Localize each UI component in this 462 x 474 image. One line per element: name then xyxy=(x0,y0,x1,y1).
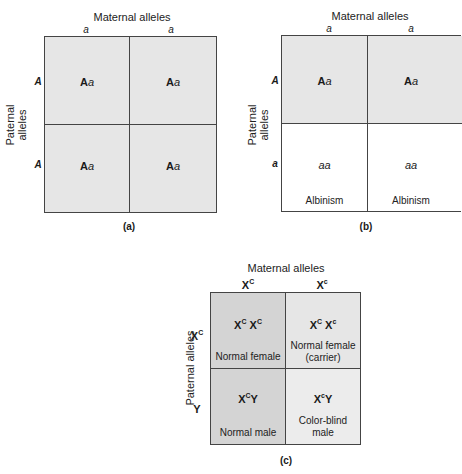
cell-c-1-2: XC Xc Normal female (carrier) xyxy=(286,293,360,369)
panel-c-row-allele-1: XC xyxy=(184,330,210,342)
panel-a-paternal-label: Paternal alleles xyxy=(4,95,28,155)
panel-b-paternal-label: Paternal alleles xyxy=(246,95,270,155)
phenotype: Albinism xyxy=(282,195,367,207)
genotype: Aa xyxy=(130,76,216,88)
panel-b-col-allele-1: a xyxy=(309,23,349,34)
cell-a-1-1: Aa xyxy=(45,37,130,125)
panel-a-paternal-line2: alleles xyxy=(16,95,28,155)
panel-a-row-allele-1: A xyxy=(31,76,45,87)
punnett-grid-c: XC XC Normal female XC Xc Normal female … xyxy=(210,292,361,445)
panel-b-paternal-line2: alleles xyxy=(258,95,270,155)
punnett-grid-b: Aa Aa aa Albinism aa Albinism xyxy=(281,35,461,212)
phenotype: Albinism xyxy=(368,195,454,207)
panel-a-col-allele-2: a xyxy=(151,24,191,35)
genotype: XC XC xyxy=(211,319,285,331)
panel-c-row-allele-2: Y xyxy=(184,403,210,415)
phenotype: Normal male xyxy=(211,427,285,439)
genotype: Aa xyxy=(368,75,454,87)
genotype: Aa xyxy=(282,75,367,87)
cell-b-1-1: Aa xyxy=(282,36,368,124)
cell-c-2-1: XCY Normal male xyxy=(211,369,286,444)
panel-b-paternal-line1: Paternal xyxy=(246,95,258,155)
panel-a-paternal-line1: Paternal xyxy=(4,95,16,155)
cell-a-2-2: Aa xyxy=(130,125,216,212)
panel-a-row-allele-2: A xyxy=(31,159,45,170)
phenotype: Normal female xyxy=(211,351,285,363)
panel-c-caption: (c) xyxy=(271,455,301,466)
cell-b-1-2: Aa xyxy=(368,36,462,124)
genotype: aa xyxy=(282,159,367,171)
punnett-grid-a: Aa Aa Aa Aa xyxy=(44,36,217,213)
phenotype: Normal female xyxy=(286,340,360,352)
genotype: Aa xyxy=(45,160,129,172)
genotype: Aa xyxy=(45,76,129,88)
panel-a-maternal-label: Maternal alleles xyxy=(82,11,182,23)
cell-c-1-1: XC XC Normal female xyxy=(211,293,286,369)
panel-b-caption: (b) xyxy=(351,221,381,232)
panel-b-row-allele-1: A xyxy=(268,75,282,86)
genotype: XcY xyxy=(286,393,360,405)
panel-b-row-allele-2: a xyxy=(268,158,282,169)
cell-a-1-2: Aa xyxy=(130,37,216,125)
panel-a-col-allele-1: a xyxy=(66,24,106,35)
panel-a-caption: (a) xyxy=(114,221,144,232)
phenotype-note: male xyxy=(286,427,360,439)
genotype: aa xyxy=(368,159,454,171)
cell-a-2-1: Aa xyxy=(45,125,130,212)
panel-c-col-allele-2: Xc xyxy=(307,279,337,291)
cell-c-2-2: XcY Color-blind male xyxy=(286,369,360,444)
cell-b-2-1: aa Albinism xyxy=(282,124,368,211)
phenotype-note: (carrier) xyxy=(286,352,360,364)
panel-c-maternal-label: Maternal alleles xyxy=(236,262,336,274)
genotype: Aa xyxy=(130,160,216,172)
panel-b-col-allele-2: a xyxy=(391,23,431,34)
panel-c-col-allele-1: XC xyxy=(233,279,263,291)
genotype: XCY xyxy=(211,393,285,405)
phenotype: Color-blind xyxy=(286,415,360,427)
genotype: XC Xc xyxy=(286,319,360,331)
cell-b-2-2: aa Albinism xyxy=(368,124,462,211)
panel-b-maternal-label: Maternal alleles xyxy=(320,10,420,22)
